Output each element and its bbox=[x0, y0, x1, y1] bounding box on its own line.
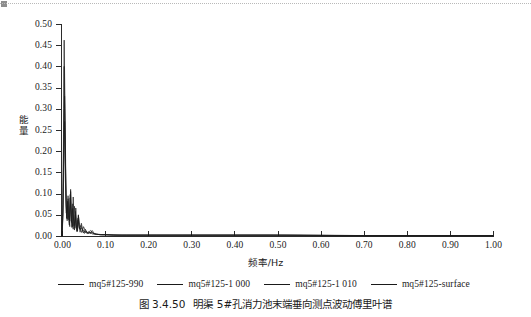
y-axis-tick-label: 0.35 bbox=[35, 83, 52, 93]
series-line bbox=[62, 40, 493, 236]
legend-item[interactable]: mq5#125-1 010 bbox=[264, 280, 357, 290]
figure-caption-text: 明渠 5#孔消力池末端垂向测点波动傅里叶谱 bbox=[193, 298, 392, 310]
x-axis-tick-label: 1.00 bbox=[485, 241, 502, 251]
legend-item[interactable]: mq5#125-surface bbox=[371, 280, 470, 290]
legend-item-label: mq5#125-1 000 bbox=[188, 280, 250, 290]
legend-line-icon bbox=[371, 284, 397, 285]
y-axis-tick-label: 0.00 bbox=[35, 232, 52, 242]
figure-container: 能量 0.000.050.100.150.200.250.300.350.400… bbox=[0, 0, 531, 317]
figure-caption-number: 图 3.4.50 bbox=[139, 298, 186, 310]
x-axis-tick-label: 0.00 bbox=[54, 241, 71, 251]
legend-line-icon bbox=[58, 284, 84, 285]
series-line bbox=[62, 66, 493, 236]
y-axis-tick-label: 0.20 bbox=[35, 147, 52, 157]
y-axis-tick-label: 0.15 bbox=[35, 168, 52, 178]
legend-item[interactable]: mq5#125-990 bbox=[58, 280, 143, 290]
legend-item[interactable]: mq5#125-1 000 bbox=[157, 280, 250, 290]
legend-item-label: mq5#125-990 bbox=[89, 280, 143, 290]
x-axis-tick-label: 0.20 bbox=[140, 241, 157, 251]
x-axis-tick-label: 0.10 bbox=[97, 241, 114, 251]
y-axis-tick-label: 0.30 bbox=[35, 105, 52, 115]
y-axis-tick-label: 0.40 bbox=[35, 62, 52, 72]
x-axis-tick-label: 0.30 bbox=[183, 241, 200, 251]
y-axis-tick-label: 0.50 bbox=[35, 20, 52, 30]
top-divider-rule bbox=[0, 3, 531, 5]
y-axis-tick-label: 0.45 bbox=[35, 41, 52, 51]
legend-item-label: mq5#125-1 010 bbox=[295, 280, 357, 290]
chart-legend: mq5#125-990mq5#125-1 000mq5#125-1 010mq5… bbox=[58, 278, 518, 291]
y-axis-tick-label: 0.05 bbox=[35, 211, 52, 221]
series-line bbox=[62, 122, 493, 236]
y-axis-tick-label: 0.25 bbox=[35, 126, 52, 136]
legend-item-label: mq5#125-surface bbox=[402, 280, 470, 290]
legend-line-icon bbox=[157, 284, 183, 285]
legend-line-icon bbox=[264, 284, 290, 285]
x-axis-tick-label: 0.90 bbox=[442, 241, 459, 251]
x-axis-tick-label: 0.60 bbox=[313, 241, 330, 251]
series-line bbox=[62, 96, 493, 236]
x-axis-tick-label: 0.80 bbox=[399, 241, 416, 251]
x-axis-tick-label: 0.40 bbox=[226, 241, 243, 251]
x-axis-tick-label: 0.50 bbox=[269, 241, 286, 251]
x-axis-tick: 1.00 bbox=[493, 231, 494, 237]
figure-caption: 图 3.4.50明渠 5#孔消力池末端垂向测点波动傅里叶谱 bbox=[0, 296, 531, 311]
plot-area bbox=[62, 24, 493, 236]
x-axis-tick-label: 0.70 bbox=[356, 241, 373, 251]
series-lines bbox=[62, 24, 493, 236]
y-axis-tick-label: 0.10 bbox=[35, 189, 52, 199]
x-axis-label: 频率/Hz bbox=[0, 255, 531, 269]
y-axis-label: 能量 bbox=[18, 114, 30, 136]
